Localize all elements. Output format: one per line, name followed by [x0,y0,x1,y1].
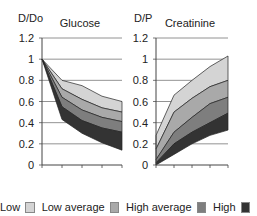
y-tick-label: 0 [142,159,148,171]
legend-swatch-high-average [197,202,206,213]
y-tick-label: 0.8 [133,74,148,86]
legend-swatch-high [241,202,250,213]
y-tick-label: 1.2 [133,32,148,44]
y-tick-label: 1.2 [19,32,34,44]
y-tick-label: 0.6 [133,96,148,108]
y-axis-label: D/P [134,12,152,24]
y-tick-label: 0.4 [133,117,148,129]
y-tick-label: 0.6 [19,96,34,108]
legend-label-low-average: Low average [42,201,105,213]
legend-swatch-low-average [110,202,119,213]
chart-title: Glucose [60,17,100,29]
chart-canvas: 00.20.40.60.811.2D/DoGlucose00.20.40.60.… [0,0,257,200]
y-tick-label: 0.2 [133,138,148,150]
y-axis-label: D/Do [18,12,43,24]
legend-label-high-average: High average [126,201,191,213]
legend-swatch-low [25,202,34,213]
legend: Low Low average High average High [0,199,257,215]
y-tick-label: 0.2 [19,138,34,150]
y-tick-label: 1 [142,53,148,65]
y-tick-label: 0 [28,159,34,171]
legend-label-low: Low [0,201,20,213]
y-tick-label: 0.8 [19,74,34,86]
legend-label-high: High [213,201,236,213]
y-tick-label: 0.4 [19,117,34,129]
y-tick-label: 1 [28,53,34,65]
chart-title: Creatinine [165,17,215,29]
